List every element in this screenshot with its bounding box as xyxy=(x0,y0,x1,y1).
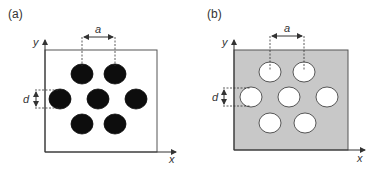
inclusion-circle xyxy=(278,87,300,107)
inclusion-circle xyxy=(71,64,93,84)
x-axis-label: x xyxy=(168,153,175,165)
panel-b: (b) y x a d xyxy=(207,7,365,164)
inclusion-circle xyxy=(259,113,281,133)
panel-a: (a) y x a d xyxy=(8,7,176,165)
diagram-canvas: (a) y x a d (b) y x a xyxy=(0,0,382,170)
x-axis-label: x xyxy=(356,152,363,164)
inclusion-circle xyxy=(87,89,109,109)
inclusion-circle xyxy=(49,89,71,109)
spacing-label: a xyxy=(95,23,101,35)
inclusion-circle xyxy=(104,64,126,84)
inclusion-circle xyxy=(71,114,93,134)
panel-label: (b) xyxy=(207,7,222,21)
inclusion-circle xyxy=(125,89,147,109)
diameter-label: d xyxy=(212,91,219,103)
panel-label: (a) xyxy=(8,7,23,21)
inclusion-circle xyxy=(240,87,262,107)
spacing-label: a xyxy=(284,22,290,34)
inclusion-circle xyxy=(104,114,126,134)
inclusion-circle xyxy=(294,113,316,133)
y-axis-label: y xyxy=(221,36,229,48)
y-axis-label: y xyxy=(32,36,40,48)
diameter-label: d xyxy=(23,93,30,105)
inclusion-circle xyxy=(316,87,338,107)
